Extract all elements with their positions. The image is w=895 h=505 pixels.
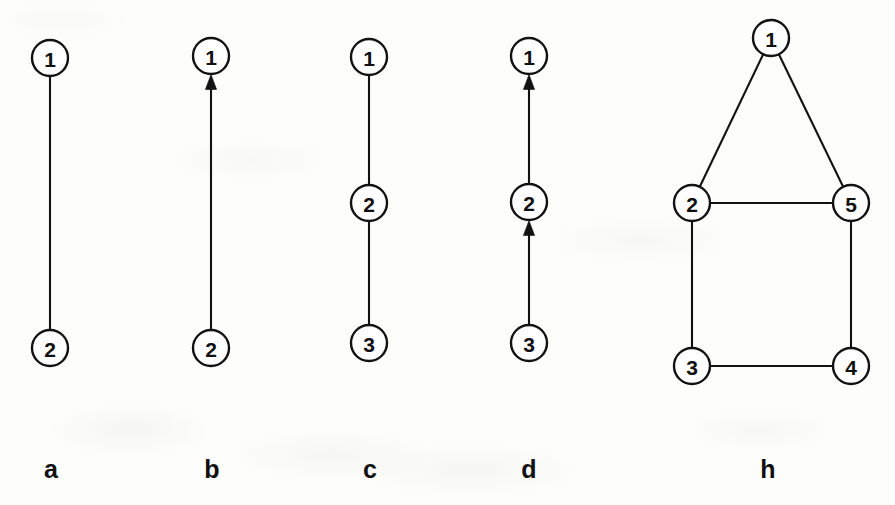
figure-canvas: 121212312312534 abcdh [0, 0, 895, 505]
node-label: 1 [205, 46, 217, 69]
panel-captions-layer: abcdh [44, 455, 776, 483]
graph-node-c-1[interactable]: 1 [351, 39, 387, 75]
node-label: 3 [363, 333, 375, 356]
node-label: 5 [845, 193, 857, 216]
node-label: 2 [686, 193, 698, 216]
panel-caption-h: h [760, 455, 775, 483]
node-label: 1 [523, 46, 535, 69]
node-label: 3 [686, 356, 698, 379]
arrowhead-icon-b-b2-b1 [205, 75, 216, 90]
node-label: 2 [205, 338, 217, 361]
node-label: 2 [363, 193, 375, 216]
panel-caption-a: a [44, 455, 59, 483]
graph-node-c-3[interactable]: 3 [351, 325, 387, 361]
panel-caption-b: b [204, 455, 219, 483]
graph-node-d-1[interactable]: 1 [511, 38, 547, 74]
panel-caption-c: c [363, 455, 377, 483]
graph-node-h-1[interactable]: 1 [753, 20, 789, 56]
graph-node-b-1[interactable]: 1 [193, 38, 229, 74]
node-label: 3 [523, 333, 535, 356]
graph-node-a-1[interactable]: 1 [32, 40, 68, 76]
graph-node-h-5[interactable]: 5 [833, 185, 869, 221]
graph-edge-h-h1-h5 [779, 54, 843, 187]
graph-node-h-4[interactable]: 4 [833, 348, 869, 384]
graph-edge-h-h1-h2 [700, 54, 763, 187]
node-label: 2 [523, 192, 535, 215]
graph-node-h-2[interactable]: 2 [674, 185, 710, 221]
graph-node-d-3[interactable]: 3 [511, 325, 547, 361]
node-label: 1 [363, 47, 375, 70]
panel-caption-d: d [521, 455, 536, 483]
arrowhead-icon-d-d3-d2 [523, 221, 534, 236]
node-label: 1 [44, 48, 56, 71]
node-label: 4 [845, 356, 857, 379]
graph-node-b-2[interactable]: 2 [193, 330, 229, 366]
graph-node-a-2[interactable]: 2 [32, 330, 68, 366]
node-label: 2 [44, 338, 56, 361]
node-label: 1 [765, 28, 777, 51]
edges-layer [50, 54, 851, 366]
arrowhead-icon-d-d2-d1 [523, 75, 534, 90]
graph-node-h-3[interactable]: 3 [674, 348, 710, 384]
graph-node-d-2[interactable]: 2 [511, 184, 547, 220]
graph-figure: 121212312312534 abcdh [0, 0, 895, 505]
graph-node-c-2[interactable]: 2 [351, 185, 387, 221]
